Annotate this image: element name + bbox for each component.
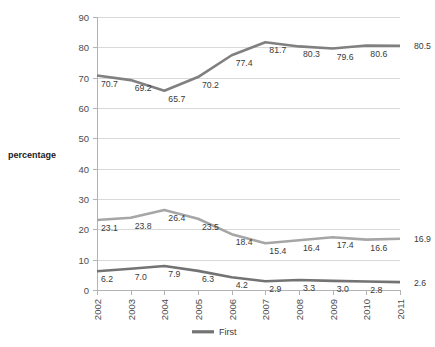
data-label: 81.7 [269,45,286,55]
data-label: 3.0 [337,284,349,294]
x-tick-label: 2006 [227,299,238,320]
x-tick-label: 2007 [260,299,271,320]
data-label: 80.5 [414,41,431,51]
y-tick-label: 90 [78,12,89,23]
y-axis-title-text: percentage [8,150,56,160]
data-label: 2.6 [414,278,426,288]
data-label: 4.2 [236,280,248,290]
x-tick-label: 2008 [294,299,305,320]
y-tick-label: 30 [78,194,89,205]
data-label: 6.2 [101,274,113,284]
x-tick-label: 2009 [328,299,339,320]
data-label: 18.4 [236,237,253,247]
x-tick-label: 2003 [126,299,137,320]
chart-canvas: 0102030405060708090 20022003200420052006… [0,0,435,347]
data-label: 77.4 [236,58,253,68]
data-label: 3.3 [303,283,315,293]
x-tick-label: 2010 [361,299,372,320]
y-tick-label: 50 [78,133,89,144]
data-label: 2.9 [269,284,281,294]
legend-label: First [219,327,237,337]
x-tick-label: 2005 [193,299,204,320]
data-label: 26.4 [168,213,185,223]
data-label: 23.8 [135,221,152,231]
y-axis-title: percentage [8,150,56,160]
y-tick-label: 40 [78,164,89,175]
data-label: 80.3 [303,49,320,59]
data-label: 7.9 [168,269,180,279]
data-label: 69.2 [135,83,152,93]
data-label: 65.7 [168,94,185,104]
chart-legend: First [192,327,237,337]
y-axis-tick-labels: 0102030405060708090 [78,12,89,296]
data-label: 6.3 [202,274,214,284]
data-label: 70.2 [202,80,219,90]
y-tick-label: 60 [78,103,89,114]
y-tick-label: 70 [78,73,89,84]
data-label: 80.6 [370,49,387,59]
line-chart: 0102030405060708090 20022003200420052006… [0,0,435,347]
y-tick-label: 0 [84,285,89,296]
x-tick-label: 2004 [159,299,170,320]
y-tick-label: 10 [78,255,89,266]
data-label: 16.4 [303,243,320,253]
data-label: 16.9 [414,234,431,244]
data-label: 2.8 [370,285,382,295]
data-label: 23.1 [101,223,118,233]
data-label: 17.4 [337,240,354,250]
data-label: 16.6 [370,243,387,253]
data-label: 70.7 [101,79,118,89]
data-label: 79.6 [337,52,354,62]
x-tick-label: 2002 [92,299,103,320]
data-label: 23.5 [202,222,219,232]
y-tick-label: 80 [78,42,89,53]
x-axis-tick-labels: 2002200320042005200620072008200920102011 [92,299,406,320]
data-label: 15.4 [269,246,286,256]
x-tick-label: 2011 [395,299,406,319]
data-labels: 70.769.265.770.277.481.780.379.680.680.5… [101,41,431,294]
data-label: 7.0 [135,272,147,282]
y-tick-label: 20 [78,224,89,235]
